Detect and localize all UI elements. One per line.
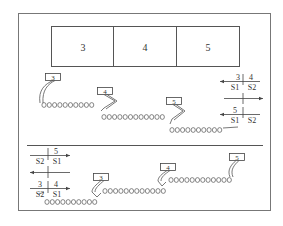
legend-bottom-right: S2 [248,83,256,92]
coil-turn [206,178,210,183]
legend-bottom-right: S1 [53,157,61,166]
bottom-panel-tags: 3 4 5 [94,154,245,183]
legend-row-1: 5 S2 S1 [30,147,70,166]
coil-turn [118,115,122,120]
coil-turn [201,178,205,183]
coil-turn [144,115,148,120]
coil-turn [90,103,94,108]
lead-wire-4 [158,171,170,187]
coil-turn [119,189,123,194]
coil-turn [114,189,118,194]
lead-wire-3 [92,181,104,198]
legend-top-right: 4 [54,180,58,189]
legend-top-right: 4 [249,73,253,82]
coil-turn [170,128,174,133]
lead-wire-tail [223,127,238,128]
coil-turn [227,178,231,183]
legend-bottom-left: S2 [36,190,44,199]
coil-turn [156,189,160,194]
tag-label-5: 5 [235,154,239,162]
coil-turn [134,115,138,120]
legend-row-3: 3 4 S2 S1 [30,180,70,199]
coil-turn [160,115,164,120]
lead-wire-4 [101,95,117,112]
coil-turn [123,115,127,120]
legend-top-left: 3 [38,180,42,189]
coil-turn [135,189,139,194]
coil-turn [202,128,206,133]
coil-turn [129,189,133,194]
coil-turn [45,200,49,205]
legend-row-3: 5 S1 S2 [220,106,260,125]
legend-top-left: 5 [233,106,237,115]
coil-turn [77,200,81,205]
legend-top-left: 3 [236,73,240,82]
coil-turn [191,128,195,133]
coil-turn [190,178,194,183]
coil-turn [217,178,221,183]
segment-label-3: 3 [81,42,86,53]
coil-turn [71,200,75,205]
tag-label-5: 5 [172,98,176,106]
lead-wire-5 [229,161,239,178]
coil-turn [113,115,117,120]
coil-turn [175,128,179,133]
legend-bottom-left: S1 [231,83,239,92]
coil-turn [93,200,97,205]
coil-turn [211,178,215,183]
coil-turn [140,189,144,194]
coil-turn [53,103,57,108]
tag-label-4: 4 [166,164,170,172]
coil-turn [124,189,128,194]
coil-turn [84,103,88,108]
legend-bottom-right: S2 [248,116,256,125]
tag-label-4: 4 [103,88,107,96]
segment-bar: 3 4 5 [52,27,240,67]
coil-turn [42,103,46,108]
legend-row-1: 3 4 S1 S2 [220,73,260,92]
coil-turn [82,200,86,205]
coil-turn [79,103,83,108]
legend-bottom-left: S2 [36,157,44,166]
legend-row-2 [224,93,263,104]
coil-turn [128,115,132,120]
coil-turn [74,103,78,108]
coil-turn [151,189,155,194]
coil-turn [150,115,154,120]
bottom-panel-coils [39,161,239,205]
coil-turn [207,128,211,133]
legend-top-right: 5 [54,147,58,156]
coil-turn [196,128,200,133]
coil-turn [186,128,190,133]
coil-turn [181,128,185,133]
coil-turn [61,200,65,205]
coil-turn [102,115,106,120]
coil-turn [195,178,199,183]
coil-turn [161,189,165,194]
coil-turn [222,178,226,183]
coil-turn [180,178,184,183]
coil-turn [47,103,51,108]
diagram-canvas: 3 4 5 3 4 5 3 4 S1 S2 5 [0,0,283,226]
coil-turn [87,200,91,205]
coil-turn [66,200,70,205]
coil-turn [218,128,222,133]
legend-bottom-right: S1 [53,190,61,199]
segment-label-4: 4 [143,42,148,53]
lead-wire-5 [170,105,185,125]
coil-turn [103,189,107,194]
coil-turn [139,115,143,120]
coil-turn [185,178,189,183]
coil-turn [63,103,67,108]
tag-label-3: 3 [99,174,103,182]
coil-turn [169,178,173,183]
bottom-legend: 5 S2 S1 3 4 S2 S1 [30,147,70,199]
top-legend: 3 4 S1 S2 5 S1 S2 [220,73,263,125]
coil-turn [50,200,54,205]
coil-turn [58,103,62,108]
coil-turn [212,128,216,133]
lead-wire-3 [40,81,55,104]
coil-turn [68,103,72,108]
legend-row-2 [30,166,70,178]
segment-label-5: 5 [206,42,211,53]
